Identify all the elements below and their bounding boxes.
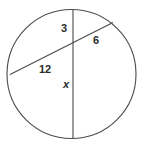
segment-label-12: 12 [39, 64, 51, 75]
figure-canvas [0, 0, 142, 148]
circle-outline [7, 10, 136, 139]
segment-label-x: x [63, 79, 69, 90]
segment-label-3: 3 [61, 23, 67, 34]
segment-label-6: 6 [93, 35, 99, 46]
circle-chord-figure: 3 6 12 x [0, 0, 142, 148]
